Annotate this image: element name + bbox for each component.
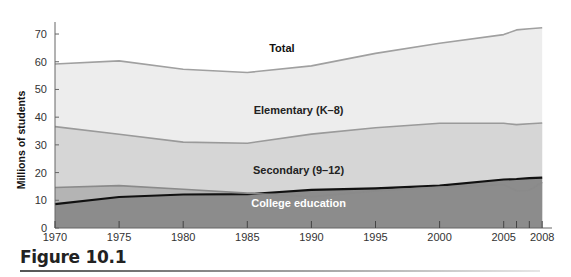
x-tick-label: 1980 — [171, 231, 195, 243]
label-college-education: College education — [251, 197, 346, 209]
stacked-area-chart: 0102030405060701970197519801985199019952… — [0, 0, 571, 277]
y-tick-label: 40 — [35, 111, 47, 123]
x-tick-label: 1975 — [107, 231, 131, 243]
y-tick-label: 20 — [35, 167, 47, 179]
figure-caption: Figure 10.1 — [20, 247, 126, 267]
x-tick-label: 1985 — [235, 231, 259, 243]
x-tick-label: 2005 — [491, 231, 515, 243]
x-tick-label: 2000 — [427, 231, 451, 243]
y-axis-title: Millions of students — [15, 91, 27, 190]
x-tick-label: 1970 — [43, 231, 67, 243]
caption-rule — [20, 270, 540, 272]
label-secondary-9-12: Secondary (9–12) — [253, 164, 344, 176]
y-tick-label: 50 — [35, 83, 47, 95]
y-tick-label: 30 — [35, 139, 47, 151]
y-tick-label: 60 — [35, 56, 47, 68]
y-tick-label: 10 — [35, 194, 47, 206]
x-tick-label: 1995 — [363, 231, 387, 243]
label-elementary-k-8: Elementary (K–8) — [254, 104, 344, 116]
y-tick-label: 70 — [35, 28, 47, 40]
label-total: Total — [269, 42, 294, 54]
x-tick-label: 2008 — [530, 231, 554, 243]
x-tick-label: 1990 — [299, 231, 323, 243]
